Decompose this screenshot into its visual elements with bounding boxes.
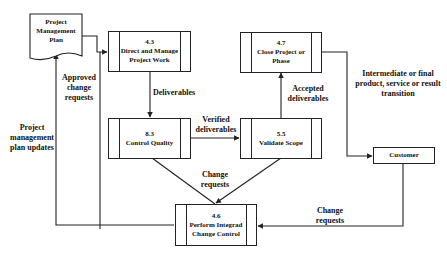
label-change-requests-customer: Change requests bbox=[310, 206, 350, 226]
process-name-line-1: Perform Integrad bbox=[189, 221, 242, 230]
doc-line-1: Project bbox=[30, 18, 82, 27]
process-4-3-direct-and-manage-project-work: 4.3 Direct and Manage Project Work bbox=[108, 31, 191, 72]
process-name-line-2: Project Work bbox=[129, 56, 169, 65]
label-intermediate-final-product-transition: Intermediate or final product, service o… bbox=[350, 69, 446, 99]
process-8-3-control-quality: 8.3 Control Quality bbox=[108, 118, 191, 159]
process-name-line-1: Close Project or bbox=[257, 48, 305, 57]
process-5-5-validate-scope: 5.5 Validate Scope bbox=[240, 118, 322, 159]
process-name-line-1: Control Quality bbox=[126, 139, 174, 148]
process-id: 4.3 bbox=[145, 38, 154, 47]
process-name-line-2: Phase bbox=[272, 57, 290, 66]
label-change-requests-center: Change requests bbox=[193, 170, 237, 190]
process-name-line-1: Direct and Manage bbox=[121, 47, 178, 56]
process-id: 8.3 bbox=[145, 130, 154, 139]
process-id: 4.7 bbox=[277, 39, 286, 48]
customer-box: Customer bbox=[373, 147, 435, 164]
process-name-line-1: Validate Scope bbox=[259, 139, 303, 148]
process-id: 5.5 bbox=[277, 130, 286, 139]
label-project-management-plan-updates: Project management plan updates bbox=[9, 123, 55, 153]
process-id: 4.6 bbox=[212, 212, 221, 221]
label-accepted-deliverables: Accepted deliverables bbox=[286, 84, 330, 104]
process-name-line-2: Change Control bbox=[192, 230, 240, 239]
process-4-7-close-project-or-phase: 4.7 Close Project or Phase bbox=[240, 32, 322, 73]
process-4-6-perform-integrated-change-control: 4.6 Perform Integrad Change Control bbox=[175, 204, 257, 246]
project-management-plan-document: Project Management Plan bbox=[30, 14, 82, 62]
doc-line-3: Plan bbox=[30, 36, 82, 45]
label-deliverables: Deliverables bbox=[153, 88, 195, 98]
label-verified-deliverables: Verified deliverables bbox=[194, 115, 238, 135]
doc-line-2: Management bbox=[30, 27, 82, 36]
label-approved-change-requests: Approved change requests bbox=[61, 73, 97, 103]
customer-label: Customer bbox=[389, 151, 419, 160]
